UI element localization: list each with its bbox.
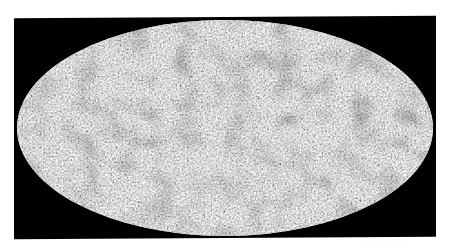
sky-map: [0, 0, 452, 251]
mollweide-ellipse: [17, 20, 433, 236]
figure-caption: · · · · · · · · ·: [360, 241, 409, 248]
